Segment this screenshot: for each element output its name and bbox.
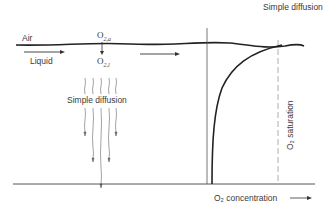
air-liquid-interface [16, 43, 304, 48]
x-axis-arrow-icon [290, 196, 312, 200]
o2-air-label: O2,a [97, 30, 111, 42]
o2-liquid-label: O2,l [97, 56, 110, 68]
x-axis-label: O₂ concentration [214, 193, 277, 203]
liquid-flow-arrow-right [140, 52, 180, 56]
liquid-label: Liquid [30, 56, 53, 66]
o2-liquid-subscript: 2,l [104, 62, 110, 68]
diagram-title: Simple diffusion [263, 2, 323, 12]
concentration-profile-curve [212, 45, 282, 184]
o2-air-subscript: 2,a [104, 36, 112, 42]
air-label: Air [22, 33, 32, 43]
saturation-label: O₂ saturation [285, 100, 295, 150]
simple-diffusion-label: Simple diffusion [66, 95, 128, 105]
liquid-flow-arrow-left [24, 50, 65, 54]
diagram-canvas [0, 0, 327, 218]
